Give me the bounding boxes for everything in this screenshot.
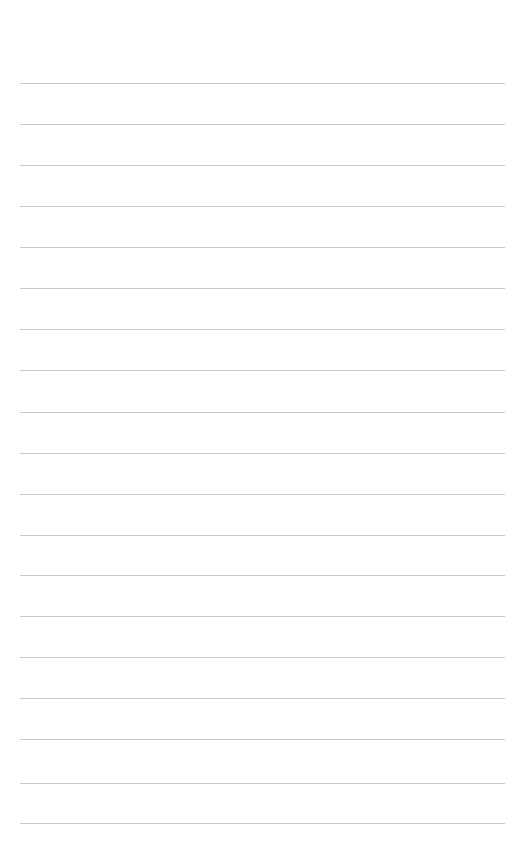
ruled-line [20, 165, 505, 166]
ruled-line [20, 247, 505, 248]
ruled-line [20, 783, 505, 784]
ruled-line [20, 575, 505, 576]
ruled-line [20, 616, 505, 617]
ruled-line [20, 370, 505, 371]
ruled-line [20, 535, 505, 536]
ruled-line [20, 124, 505, 125]
ruled-line [20, 412, 505, 413]
ruled-line [20, 698, 505, 699]
ruled-line [20, 288, 505, 289]
lined-paper-page [0, 0, 522, 867]
ruled-line [20, 83, 505, 84]
ruled-line [20, 453, 505, 454]
ruled-line [20, 494, 505, 495]
ruled-line [20, 823, 505, 824]
ruled-line [20, 206, 505, 207]
ruled-line [20, 329, 505, 330]
ruled-line [20, 739, 505, 740]
ruled-line [20, 657, 505, 658]
